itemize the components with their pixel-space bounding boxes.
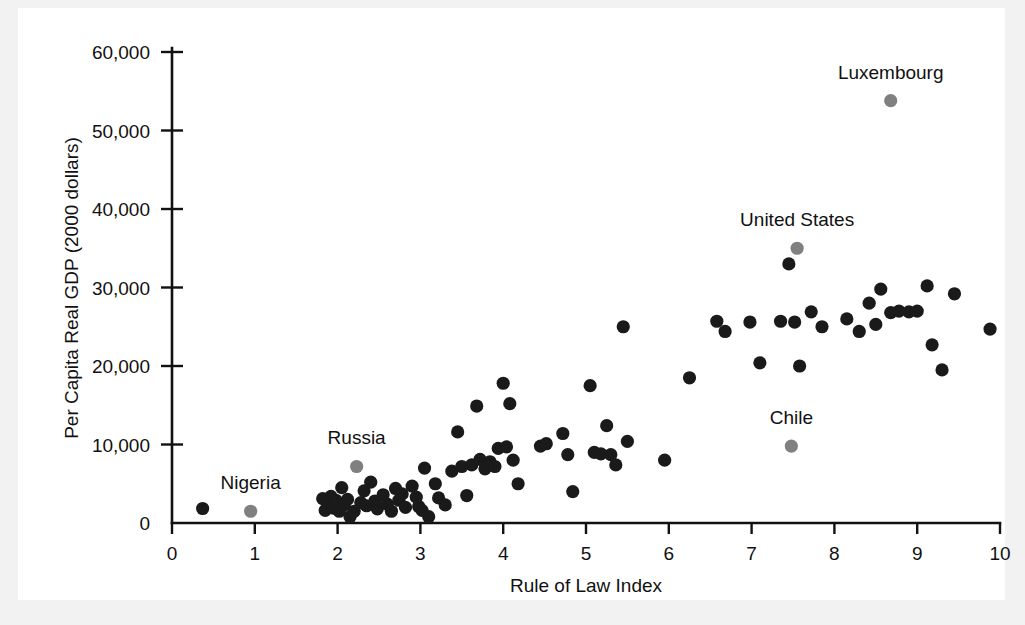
y-tick-label: 60,000	[92, 42, 150, 63]
scatter-plot: 012345678910 010,00020,00030,00040,00050…	[0, 0, 1025, 625]
annotation-label: United States	[740, 209, 854, 230]
data-point	[935, 363, 948, 376]
data-point	[948, 287, 961, 300]
data-point	[874, 282, 887, 295]
data-point	[710, 315, 723, 328]
highlighted-data-point	[884, 94, 897, 107]
data-point	[921, 279, 934, 292]
data-point	[460, 489, 473, 502]
data-point	[658, 454, 671, 467]
x-tick-label: 2	[332, 543, 343, 564]
x-axis-title: Rule of Law Index	[510, 575, 663, 596]
data-point	[418, 461, 431, 474]
annotation-label: Nigeria	[221, 472, 282, 493]
data-point	[753, 356, 766, 369]
x-tick-label: 6	[664, 543, 675, 564]
y-axis-ticks: 010,00020,00030,00040,00050,00060,000	[92, 42, 183, 534]
data-point	[540, 437, 553, 450]
data-point	[793, 359, 806, 372]
data-point	[399, 501, 412, 514]
y-axis-title: Per Capita Real GDP (2000 dollars)	[61, 137, 82, 439]
data-point	[621, 435, 634, 448]
data-point	[815, 320, 828, 333]
y-tick-label: 50,000	[92, 121, 150, 142]
annotation-label: Luxembourg	[838, 62, 944, 83]
data-point	[429, 477, 442, 490]
y-tick-label: 30,000	[92, 278, 150, 299]
data-point	[335, 481, 348, 494]
data-point	[609, 458, 622, 471]
data-point	[683, 371, 696, 384]
data-point	[869, 318, 882, 331]
data-point	[561, 448, 574, 461]
highlighted-data-point	[785, 439, 798, 452]
data-point	[500, 440, 513, 453]
x-axis-ticks: 012345678910	[167, 523, 1011, 564]
data-point	[719, 325, 732, 338]
data-point	[911, 304, 924, 317]
data-points	[196, 257, 997, 523]
x-tick-label: 7	[746, 543, 757, 564]
x-tick-label: 1	[250, 543, 261, 564]
data-point	[512, 477, 525, 490]
highlighted-data-point	[350, 460, 363, 473]
figure-container: 012345678910 010,00020,00030,00040,00050…	[0, 0, 1025, 625]
data-point	[926, 338, 939, 351]
x-tick-label: 8	[829, 543, 840, 564]
data-point	[507, 454, 520, 467]
data-point	[497, 377, 510, 390]
data-point	[556, 427, 569, 440]
annotation-label: Russia	[328, 427, 387, 448]
highlighted-data-point	[791, 242, 804, 255]
data-point	[439, 498, 452, 511]
x-tick-label: 10	[989, 543, 1010, 564]
data-point	[196, 502, 209, 515]
highlighted-data-point	[244, 505, 257, 518]
data-point	[566, 485, 579, 498]
x-tick-label: 0	[167, 543, 178, 564]
data-point	[782, 257, 795, 270]
data-point	[584, 379, 597, 392]
data-point	[840, 312, 853, 325]
data-point	[341, 493, 354, 506]
data-point	[470, 399, 483, 412]
data-point	[983, 323, 996, 336]
data-point	[364, 476, 377, 489]
x-tick-label: 5	[581, 543, 592, 564]
data-point	[451, 425, 464, 438]
data-point	[422, 510, 435, 523]
data-point	[743, 315, 756, 328]
data-point	[617, 320, 630, 333]
data-point	[863, 297, 876, 310]
y-tick-label: 0	[139, 513, 150, 534]
data-point	[853, 325, 866, 338]
y-tick-label: 40,000	[92, 199, 150, 220]
x-tick-label: 9	[912, 543, 923, 564]
data-point	[805, 305, 818, 318]
data-point	[385, 505, 398, 518]
point-annotations: NigeriaRussiaChileUnited StatesLuxembour…	[221, 62, 944, 494]
x-tick-label: 4	[498, 543, 509, 564]
annotation-label: Chile	[770, 407, 813, 428]
data-point	[774, 315, 787, 328]
y-tick-label: 10,000	[92, 435, 150, 456]
y-tick-label: 20,000	[92, 356, 150, 377]
data-point	[503, 397, 516, 410]
x-tick-label: 3	[415, 543, 426, 564]
data-point	[788, 315, 801, 328]
data-point	[600, 419, 613, 432]
data-point	[488, 460, 501, 473]
